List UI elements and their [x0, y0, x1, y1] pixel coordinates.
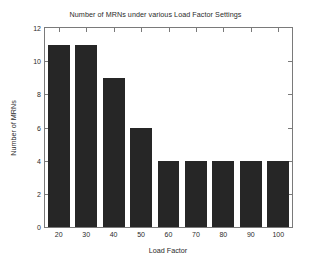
bar [212, 161, 234, 227]
x-tick-label: 100 [272, 231, 284, 238]
x-tick-label: 80 [219, 231, 227, 238]
bar [48, 45, 70, 227]
y-tick-label: 12 [33, 25, 41, 32]
y-tick-label: 2 [37, 190, 41, 197]
bar [240, 161, 262, 227]
x-tick-label: 90 [247, 231, 255, 238]
y-axis-label: Number of MRNs [9, 100, 18, 156]
figure-canvas: Number of MRNs under various Load Factor… [0, 0, 311, 268]
bar [130, 128, 152, 228]
x-tick-label: 70 [192, 231, 200, 238]
chart-title: Number of MRNs under various Load Factor… [0, 10, 311, 19]
x-tick-label: 50 [137, 231, 145, 238]
y-tick-label: 4 [37, 157, 41, 164]
y-tick-label: 0 [37, 224, 41, 231]
x-tick-label: 60 [165, 231, 173, 238]
x-tick-label: 30 [82, 231, 90, 238]
y-tick-label: 10 [33, 58, 41, 65]
x-axis-label: Load Factor [149, 246, 187, 255]
plot-area: 024681012 2030405060708090100 [44, 27, 293, 228]
bar [103, 78, 125, 227]
y-tick-label: 6 [37, 124, 41, 131]
y-tick-label: 8 [37, 91, 41, 98]
x-tick-label: 40 [110, 231, 118, 238]
bar [267, 161, 289, 227]
x-tick-label: 20 [55, 231, 63, 238]
bar [158, 161, 180, 227]
bars-layer [45, 28, 292, 227]
bar [75, 45, 97, 227]
bar [185, 161, 207, 227]
